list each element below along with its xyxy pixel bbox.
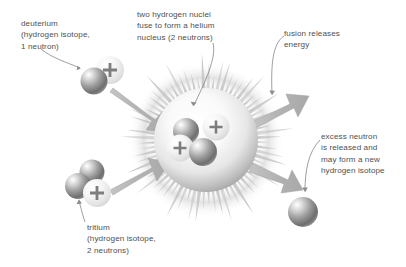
caption-deuterium: deuterium (hydrogen isotope, 1 neutron)	[21, 18, 90, 52]
fusion-diagram: deuterium (hydrogen isotope, 1 neutron) …	[0, 0, 406, 267]
leader-tritium	[79, 201, 85, 222]
released-neutron	[288, 197, 318, 227]
tritium-particle	[65, 160, 111, 208]
caption-tritium: tritium (hydrogen isotope, 2 neutrons)	[87, 222, 156, 256]
deuterium-particle	[81, 56, 125, 95]
caption-fusion-nuclei: two hydrogen nuclei fuse to form a heliu…	[137, 9, 215, 43]
helium-proton-1	[203, 114, 230, 141]
tritium-proton	[83, 179, 111, 207]
leader-excess-neutron	[305, 140, 320, 191]
deuterium-neutron	[81, 68, 108, 95]
helium-nucleus-core	[154, 88, 258, 192]
caption-excess-neutron: excess neutron is released and may form …	[321, 131, 385, 177]
caption-fusion-energy: fusion releases energy	[284, 28, 340, 51]
helium-neutron-2	[189, 138, 217, 166]
helium-proton-2	[167, 135, 194, 162]
leader-energy	[272, 36, 284, 94]
